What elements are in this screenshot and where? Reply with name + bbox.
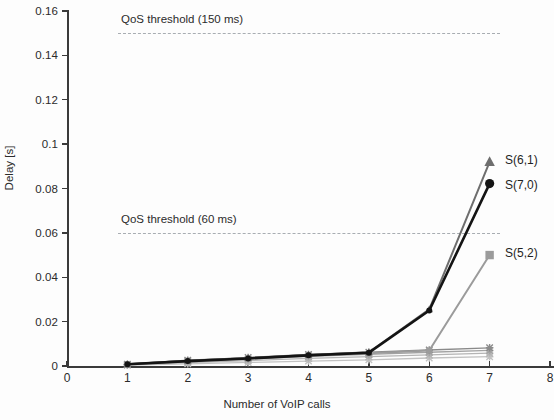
series-s70	[124, 179, 494, 367]
series-label-s70: S(7,0)	[505, 178, 538, 192]
delay-vs-voip-calls-chart: 00.020.040.060.080.10.120.140.16 0123456…	[0, 0, 554, 420]
series-label-s52: S(5,2)	[505, 246, 538, 260]
series-label-s61: S(6,1)	[505, 153, 538, 167]
plot-area	[0, 0, 554, 420]
